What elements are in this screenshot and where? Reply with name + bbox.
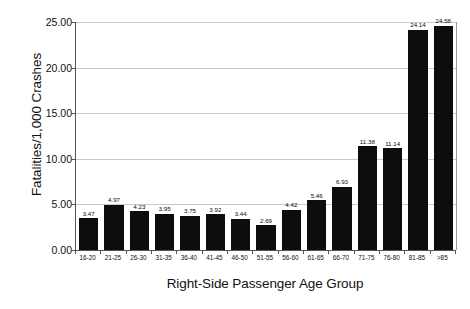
bar-value-label: 3.92 [203, 206, 228, 213]
bar[interactable] [434, 26, 453, 250]
bar-value-label: 24.14 [405, 21, 430, 28]
bar-value-label: 6.93 [329, 178, 354, 185]
x-axis-tick-label: 56-60 [278, 254, 303, 261]
bar-value-label: 3.47 [76, 210, 101, 217]
plot-area: 3.474.974.233.953.753.923.442.694.425.46… [75, 22, 456, 251]
bar[interactable] [307, 200, 326, 250]
x-axis-tick-label: >85 [430, 254, 455, 261]
y-axis-tick-label: 25.00 [28, 16, 72, 28]
bar-slot: 24.58 [431, 22, 456, 250]
y-axis-tick-label: 15.00 [28, 107, 72, 119]
bar-value-label: 2.69 [253, 217, 278, 224]
bar-slot: 6.93 [329, 22, 354, 250]
bar[interactable] [383, 148, 402, 250]
bar-slot: 2.69 [253, 22, 278, 250]
x-axis-tick-label: 71-75 [354, 254, 379, 261]
bar[interactable] [180, 216, 199, 250]
bar-value-label: 3.95 [152, 205, 177, 212]
bar-chart: Fatalities/1,000 Crashes 0.005.0010.0015… [0, 0, 470, 309]
bar[interactable] [206, 214, 225, 250]
bar-slot: 4.23 [127, 22, 152, 250]
x-axis-tick-label: 21-25 [100, 254, 125, 261]
x-axis-tick-label: 81-85 [404, 254, 429, 261]
bar-series: 3.474.974.233.953.753.923.442.694.425.46… [76, 22, 456, 250]
x-axis-tick-label: 36-40 [176, 254, 201, 261]
x-axis-title: Right-Side Passenger Age Group [75, 276, 455, 291]
bar-slot: 4.42 [279, 22, 304, 250]
bar-slot: 5.46 [304, 22, 329, 250]
x-axis-tick-labels: 16-2021-2526-3031-3536-4041-4546-5051-55… [75, 254, 455, 268]
x-axis-tick-label: 41-45 [202, 254, 227, 261]
x-axis-tick-label: 16-20 [75, 254, 100, 261]
x-axis-tick-label: 46-50 [227, 254, 252, 261]
x-axis-tick-label: 66-70 [328, 254, 353, 261]
bar[interactable] [256, 225, 275, 250]
bar[interactable] [282, 210, 301, 250]
bar-slot: 11.38 [355, 22, 380, 250]
bar-slot: 4.97 [101, 22, 126, 250]
x-axis-tick-label: 76-80 [379, 254, 404, 261]
x-axis-tick-label: 26-30 [126, 254, 151, 261]
bar[interactable] [79, 218, 98, 250]
bar-value-label: 3.75 [177, 207, 202, 214]
bar-value-label: 11.38 [355, 138, 380, 145]
y-axis-tick-label: 10.00 [28, 153, 72, 165]
bar-slot: 11.14 [380, 22, 405, 250]
bar[interactable] [408, 30, 427, 250]
bar-value-label: 4.97 [101, 196, 126, 203]
bar[interactable] [231, 219, 250, 250]
bar-slot: 3.92 [203, 22, 228, 250]
bar-value-label: 4.23 [127, 203, 152, 210]
bar-slot: 3.95 [152, 22, 177, 250]
plot-frame-right-edge [456, 22, 457, 250]
bar-value-label: 3.44 [228, 210, 253, 217]
y-axis-tick-label: 5.00 [28, 198, 72, 210]
bar[interactable] [332, 187, 351, 250]
bar-value-label: 5.46 [304, 192, 329, 199]
bar-value-label: 24.58 [431, 17, 456, 24]
bar-value-label: 4.42 [279, 201, 304, 208]
x-axis-tickmark [455, 250, 456, 254]
bar-slot: 3.47 [76, 22, 101, 250]
y-axis-tick-label: 0.00 [28, 244, 72, 256]
y-axis-tick-labels: 0.005.0010.0015.0020.0025.00 [22, 0, 72, 309]
bar-slot: 3.75 [177, 22, 202, 250]
bar[interactable] [130, 211, 149, 250]
x-axis-tick-label: 31-35 [151, 254, 176, 261]
bar[interactable] [155, 214, 174, 250]
x-axis-tick-label: 61-65 [303, 254, 328, 261]
bar-value-label: 11.14 [380, 140, 405, 147]
bar[interactable] [104, 205, 123, 250]
bar-slot: 3.44 [228, 22, 253, 250]
bar-slot: 24.14 [405, 22, 430, 250]
y-axis-tick-label: 20.00 [28, 62, 72, 74]
x-axis-tick-label: 51-55 [252, 254, 277, 261]
bar[interactable] [358, 146, 377, 250]
